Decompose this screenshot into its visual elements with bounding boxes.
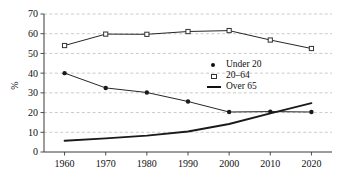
- x-tick-label: 2010: [260, 158, 280, 169]
- x-tick-label: 2020: [301, 158, 321, 169]
- y-tick-label: 50: [28, 48, 38, 59]
- data-point-marker: [62, 71, 66, 75]
- data-point-marker: [145, 32, 149, 36]
- legend-item-under-20: Under 20: [206, 59, 262, 70]
- y-tick-label: 60: [28, 28, 38, 39]
- x-tick-label: 1980: [137, 158, 157, 169]
- legend-item-20-64: 20–64: [206, 70, 262, 81]
- y-tick-label: 70: [28, 8, 38, 19]
- y-tick-label: 30: [28, 87, 38, 98]
- legend-label-under-20: Under 20: [226, 59, 262, 70]
- data-point-marker: [309, 110, 313, 114]
- series-line: [65, 103, 312, 141]
- legend-label-over-65: Over 65: [226, 81, 257, 92]
- data-point-marker: [62, 43, 66, 47]
- data-point-marker: [309, 46, 313, 50]
- filled-circle-marker-icon: [206, 59, 222, 70]
- data-point-marker: [104, 86, 108, 90]
- y-tick-label: 20: [28, 107, 38, 118]
- data-point-marker: [268, 38, 272, 42]
- x-tick-label: 1960: [55, 158, 75, 169]
- population-age-share-chart: % 01020304050607019601970198019902000201…: [0, 0, 342, 180]
- data-point-marker: [186, 29, 190, 33]
- data-point-marker: [227, 28, 231, 32]
- open-square-marker-icon: [206, 70, 222, 81]
- x-tick-label: 2000: [219, 158, 239, 169]
- x-tick-label: 1990: [178, 158, 198, 169]
- solid-line-marker-icon: [206, 81, 222, 92]
- data-point-marker: [104, 32, 108, 36]
- series-line: [65, 73, 312, 112]
- data-point-marker: [186, 99, 190, 103]
- data-point-marker: [145, 90, 149, 94]
- data-point-marker: [227, 110, 231, 114]
- y-tick-label: 0: [33, 146, 38, 157]
- chart-legend: Under 20 20–64 Over 65: [206, 59, 262, 92]
- x-tick-label: 1970: [96, 158, 116, 169]
- legend-label-20-64: 20–64: [226, 70, 250, 81]
- y-tick-label: 40: [28, 68, 38, 79]
- y-tick-label: 10: [28, 127, 38, 138]
- plot-area: 0102030405060701960197019801990200020102…: [0, 0, 342, 180]
- legend-item-over-65: Over 65: [206, 81, 262, 92]
